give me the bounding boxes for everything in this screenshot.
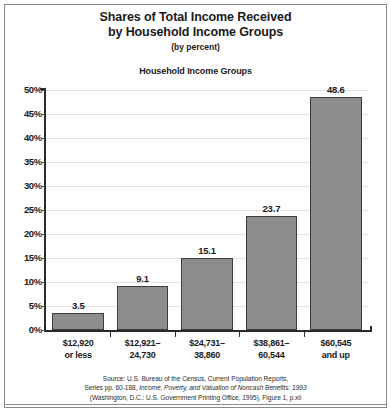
x-axis-tick <box>239 330 240 337</box>
y-axis-label: 10% <box>2 276 42 287</box>
x-axis-label: $60,545and up <box>304 338 368 361</box>
y-axis-label: 0% <box>2 324 42 335</box>
x-axis-label-line: $38,861– <box>239 338 303 350</box>
y-axis-tick <box>41 114 45 115</box>
y-axis-tick <box>41 306 45 307</box>
x-axis-line <box>44 330 370 332</box>
source-line-2: Series pp. 60-188, Income, Poverty, and … <box>12 383 379 392</box>
x-axis-label-line: and up <box>304 350 368 362</box>
y-axis-label: 25% <box>2 204 42 215</box>
source-line-2-prefix: Series pp. 60-188, <box>84 384 139 391</box>
bar-value-label: 3.5 <box>52 300 104 311</box>
y-axis-labels: 50%45%40%35%30%25%20%15%10%5%0% <box>0 90 42 330</box>
x-axis-label-line: $60,545 <box>304 338 368 350</box>
x-axis-label-line: 38,860 <box>175 350 239 362</box>
y-axis-tick <box>41 234 45 235</box>
y-axis-tick <box>41 282 45 283</box>
y-axis-label: 35% <box>2 156 42 167</box>
chart-title-line-2: by Household Income Groups <box>0 25 391 40</box>
y-axis-label: 15% <box>2 252 42 263</box>
bar <box>181 258 233 330</box>
bar-value-label: 9.1 <box>117 273 169 284</box>
x-axis-right-cap <box>370 326 372 332</box>
x-axis-label: $24,731–38,860 <box>175 338 239 361</box>
y-axis-tick <box>41 138 45 139</box>
footer-rule <box>5 404 386 405</box>
y-axis-tick <box>41 258 45 259</box>
chart-figure: Shares of Total Income Received by House… <box>0 0 391 412</box>
y-axis-label: 30% <box>2 180 42 191</box>
x-axis-label-line: $12,920 <box>46 338 110 350</box>
x-axis-label-line: $24,731– <box>175 338 239 350</box>
bar-value-label: 15.1 <box>181 245 233 256</box>
source-line-3: (Washington, D.C.: U.S. Government Print… <box>12 393 379 402</box>
x-axis-label-line: or less <box>46 350 110 362</box>
y-axis-label: 5% <box>2 300 42 311</box>
chart-title-line-1: Shares of Total Income Received <box>0 10 391 25</box>
bar <box>246 216 298 330</box>
chart-title-block: Shares of Total Income Received by House… <box>0 10 391 53</box>
plot-area: 3.59.115.123.748.6 <box>46 90 368 330</box>
bar-value-label: 23.7 <box>246 203 298 214</box>
x-axis-tick <box>304 330 305 337</box>
x-axis-label-line: 24,730 <box>110 350 174 362</box>
y-axis-label: 40% <box>2 132 42 143</box>
source-note: Source: U.S. Bureau of the Census, Curre… <box>12 374 379 402</box>
y-axis-tick <box>41 210 45 211</box>
y-axis-label: 20% <box>2 228 42 239</box>
bar <box>117 286 169 330</box>
bar-value-label: 48.6 <box>310 84 362 95</box>
y-axis-tick <box>41 330 45 331</box>
bar <box>310 97 362 330</box>
bar <box>52 313 104 330</box>
chart-subtitle: (by percent) <box>0 41 391 53</box>
source-line-1: Source: U.S. Bureau of the Census, Curre… <box>12 374 379 383</box>
x-axis-labels: $12,920or less$12,921–24,730$24,731–38,8… <box>46 338 368 372</box>
x-axis-label-line: $12,921– <box>110 338 174 350</box>
y-axis-label: 45% <box>2 108 42 119</box>
y-axis-tick <box>41 90 45 91</box>
plot-inner: 3.59.115.123.748.6 <box>46 90 368 330</box>
y-axis-label: 50% <box>2 84 42 95</box>
x-axis-group-header: Household Income Groups <box>0 66 391 76</box>
x-axis-label: $12,921–24,730 <box>110 338 174 361</box>
x-axis-tick <box>110 330 111 337</box>
x-axis-label: $38,861–60,544 <box>239 338 303 361</box>
y-axis-tick <box>41 162 45 163</box>
x-axis-label: $12,920or less <box>46 338 110 361</box>
source-line-2-title: Income, Poverty, and Valuation of Noncas… <box>139 384 306 391</box>
x-axis-tick <box>175 330 176 337</box>
y-axis-tick <box>41 186 45 187</box>
x-axis-label-line: 60,544 <box>239 350 303 362</box>
